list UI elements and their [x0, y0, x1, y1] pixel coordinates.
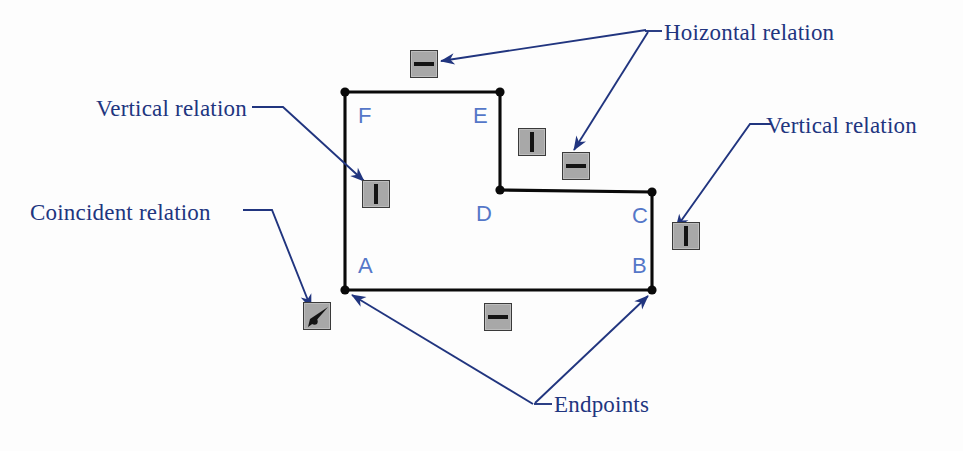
horizontal-bar-glyph	[414, 62, 434, 66]
endpoints-label: Endpoints	[554, 392, 649, 418]
vertical-relation-left-leader	[252, 107, 364, 181]
horizontal-bar-glyph	[566, 164, 586, 168]
vertex-point-e	[495, 87, 504, 96]
vertex-point-c	[647, 187, 656, 196]
vertex-label-d: D	[476, 201, 492, 227]
vertical-relation-icon-right[interactable]	[672, 222, 700, 250]
horizontal-relation-icon-middle[interactable]	[562, 152, 590, 180]
vertical-relation-label-left: Vertical relation	[96, 96, 247, 122]
coincident-relation-label: Coincident relation	[30, 200, 211, 226]
vertex-point-d	[495, 185, 504, 194]
coincident-relation-leader	[243, 210, 311, 308]
horizontal-bar-glyph	[488, 315, 508, 319]
vertex-label-a: A	[358, 253, 373, 279]
vertical-bar-glyph	[374, 184, 378, 204]
endpoints-arrow-b	[535, 296, 648, 403]
vertex-label-e: E	[473, 103, 488, 129]
vertical-relation-icon-middle[interactable]	[518, 128, 546, 156]
coincident-wedge-glyph	[306, 305, 330, 329]
vertical-relation-label-right: Vertical relation	[766, 113, 917, 139]
vertical-relation-right-leader	[676, 124, 772, 228]
horizontal-relation-icon-bottom[interactable]	[484, 303, 512, 331]
vertex-label-b: B	[632, 253, 647, 279]
vertical-relation-icon-left[interactable]	[362, 180, 390, 208]
vertex-label-c: C	[632, 203, 648, 229]
vertex-label-f: F	[358, 103, 371, 129]
hoizontal-relation-arrow-top	[441, 30, 646, 61]
vertex-point-a	[340, 285, 349, 294]
vertical-bar-glyph	[684, 226, 688, 246]
hoizontal-relation-label: Hoizontal relation	[664, 20, 834, 46]
vertical-bar-glyph	[530, 132, 534, 152]
coincident-relation-icon[interactable]	[303, 302, 331, 330]
vertex-point-f	[340, 87, 349, 96]
horizontal-relation-icon-top[interactable]	[410, 50, 438, 78]
engineering-sketch-figure: A B C D E F Hoizontal relation Vertical …	[0, 0, 963, 451]
vertex-point-b	[647, 285, 656, 294]
hoizontal-relation-arrow-middle	[574, 32, 648, 150]
